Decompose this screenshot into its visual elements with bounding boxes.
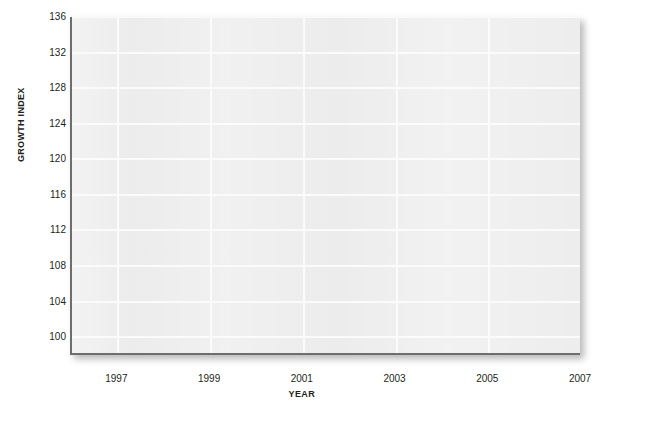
x-tick-label: 1999: [198, 374, 220, 384]
x-tick-label: 1997: [105, 374, 127, 384]
y-tick-label: 100: [49, 332, 66, 342]
x-tick-label: 2003: [383, 374, 405, 384]
gridline-vertical: [117, 17, 119, 353]
gridline-vertical: [488, 17, 490, 353]
gridline-horizontal: [72, 229, 580, 231]
gridline-horizontal: [72, 301, 580, 303]
gridline-horizontal: [72, 158, 580, 160]
gridline-vertical: [210, 17, 212, 353]
y-tick-label: 132: [49, 48, 66, 58]
y-tick-label: 120: [49, 154, 66, 164]
y-axis-title: GROWTH INDEX: [16, 148, 26, 162]
y-tick-label: 104: [49, 297, 66, 307]
gridline-horizontal: [72, 265, 580, 267]
x-tick-label: 2005: [476, 374, 498, 384]
gridline-horizontal: [72, 123, 580, 125]
gridline-horizontal: [72, 194, 580, 196]
y-tick-label: 128: [49, 83, 66, 93]
plot-area: [70, 17, 580, 355]
gridline-vertical: [396, 17, 398, 353]
y-tick-label: 116: [50, 190, 66, 200]
gridline-horizontal: [72, 87, 580, 89]
x-axis-title: YEAR: [289, 389, 316, 399]
chart-figure: 100104108112116120124128132136 199719992…: [0, 0, 649, 423]
y-tick-label: 136: [49, 12, 66, 22]
x-tick-label: 2001: [291, 374, 313, 384]
gridline-horizontal: [72, 336, 580, 338]
gridline-horizontal: [72, 17, 580, 18]
gridline-vertical: [303, 17, 305, 353]
y-tick-label: 108: [49, 261, 66, 271]
gridline-horizontal: [72, 52, 580, 54]
y-tick-label: 124: [49, 119, 66, 129]
y-tick-label: 112: [50, 225, 66, 235]
x-tick-label: 2007: [569, 374, 591, 384]
